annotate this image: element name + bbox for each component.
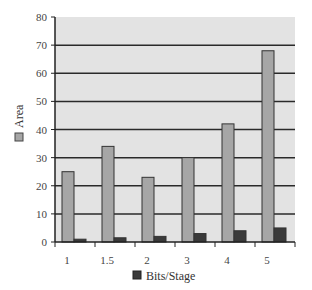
bar-area [142, 177, 154, 242]
legend-swatch-bits-stage [133, 271, 141, 279]
x-tick-label: 1 [64, 254, 70, 266]
bar-area [62, 172, 74, 242]
bar-bits-stage [194, 234, 206, 242]
y-tick-label: 60 [36, 67, 48, 79]
x-tick-label: 3 [184, 254, 190, 266]
legend-area: Area [12, 104, 26, 141]
x-tick-label: 5 [264, 254, 270, 266]
bar-area [262, 51, 274, 242]
legend-label-bits-stage: Bits/Stage [146, 269, 195, 283]
x-tick-label: 4 [224, 254, 230, 266]
plot-area [55, 17, 295, 242]
y-tick-label: 50 [36, 95, 48, 107]
bar-area [102, 146, 114, 242]
x-tick-label: 2 [144, 254, 150, 266]
bar-bits-stage [154, 236, 166, 242]
legend-swatch-area [15, 133, 23, 141]
legend-bits-stage: Bits/Stage [133, 269, 195, 283]
legend-label-area: Area [12, 104, 26, 128]
x-axis: 11.52345 [55, 242, 295, 266]
y-tick-label: 10 [36, 208, 48, 220]
y-tick-label: 40 [36, 124, 48, 136]
bar-area [222, 124, 234, 242]
bar-area [182, 158, 194, 242]
y-tick-label: 20 [36, 180, 48, 192]
y-tick-label: 80 [36, 11, 48, 23]
y-tick-label: 0 [42, 236, 48, 248]
bar-chart: 01020304050607080 11.52345 Area Bits/Sta… [0, 0, 312, 290]
y-tick-label: 70 [36, 39, 48, 51]
bar-bits-stage [234, 231, 246, 242]
bar-bits-stage [274, 228, 286, 242]
x-tick-label: 1.5 [100, 254, 114, 266]
y-axis: 01020304050607080 [36, 11, 55, 248]
y-tick-label: 30 [36, 152, 48, 164]
